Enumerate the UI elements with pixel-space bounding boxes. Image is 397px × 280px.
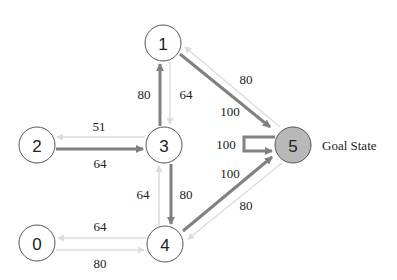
edge-label-3-1: 80 xyxy=(138,87,151,102)
edge-5-self-loop xyxy=(244,137,275,151)
node-1-label: 1 xyxy=(158,35,167,54)
node-4: 4 xyxy=(147,226,183,262)
edge-label-3-4: 80 xyxy=(180,187,193,202)
edge-label-5-5: 100 xyxy=(216,137,236,152)
edge-label-2-3: 64 xyxy=(94,156,108,171)
edge-label-4-0: 64 xyxy=(94,219,108,234)
edge-label-4-3: 64 xyxy=(137,187,151,202)
node-2-label: 2 xyxy=(32,137,41,156)
edge-label-5-4: 80 xyxy=(240,198,253,213)
goal-state-label: Goal State xyxy=(322,138,377,153)
node-5-label: 5 xyxy=(288,137,297,156)
node-3: 3 xyxy=(146,127,182,163)
edge-label-5-1: 80 xyxy=(240,72,253,87)
edge-label-0-4: 80 xyxy=(94,256,107,271)
edge-label-1-5: 100 xyxy=(220,104,240,119)
edge-label-4-5: 100 xyxy=(220,166,240,181)
node-4-label: 4 xyxy=(160,236,169,255)
state-graph: 80 64 100 80 51 64 100 80 64 100 80 64 8… xyxy=(0,0,397,280)
node-3-label: 3 xyxy=(159,137,168,156)
node-0-label: 0 xyxy=(32,235,41,254)
node-1: 1 xyxy=(145,25,181,61)
node-0: 0 xyxy=(19,225,55,261)
edge-label-3-2: 51 xyxy=(93,119,106,134)
node-5-goal: 5 xyxy=(275,127,311,163)
edge-label-1-3: 64 xyxy=(180,87,194,102)
node-2: 2 xyxy=(19,127,55,163)
